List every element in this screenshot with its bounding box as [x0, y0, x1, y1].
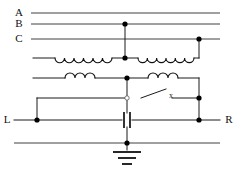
inductor-left-icon — [65, 73, 95, 78]
label-switch-mark: x — [169, 91, 173, 100]
node-ground — [124, 140, 129, 145]
node-left-terminal — [34, 117, 39, 122]
node-transformer-center — [122, 55, 127, 60]
node-switch-pivot — [125, 96, 129, 100]
junction-nodes — [34, 21, 201, 145]
label-terminal-left: L — [4, 113, 11, 125]
label-phase-c: C — [15, 32, 22, 44]
circuit-diagram: A B C L R x — [0, 0, 237, 176]
earth-ground-icon — [113, 152, 141, 164]
transformer-coil-right-icon — [138, 58, 194, 63]
label-phase-b: B — [15, 17, 22, 29]
node-inductor-center — [124, 75, 129, 80]
capacitor-icon — [124, 112, 130, 128]
node-c-tap — [196, 36, 201, 41]
node-right-terminal — [196, 117, 201, 122]
inductor-right-icon — [148, 73, 178, 78]
transformer-coil-left-icon — [55, 58, 112, 63]
node-switch-right — [196, 95, 201, 100]
node-b-tap — [122, 21, 127, 26]
circuit-canvas: A B C L R x — [0, 0, 237, 176]
inductor-row — [33, 73, 199, 78]
label-terminal-right: R — [225, 113, 233, 125]
switch-blade — [141, 89, 166, 98]
switch-branch[interactable] — [37, 89, 199, 98]
transformer-winding-row — [33, 58, 199, 63]
